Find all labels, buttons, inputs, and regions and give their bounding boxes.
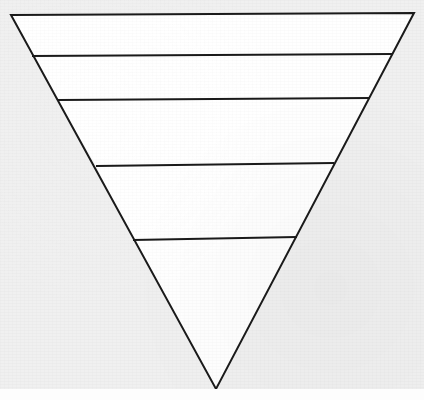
bottom-margin-band — [0, 389, 424, 400]
band-4 — [96, 163, 334, 240]
band-5 — [133, 237, 297, 389]
inverted-triangle-diagram — [0, 0, 424, 400]
band-2 — [32, 54, 392, 100]
band-3 — [58, 98, 370, 166]
figure-canvas — [0, 0, 424, 400]
band-1 — [11, 13, 414, 56]
triangle-bands — [11, 13, 414, 389]
